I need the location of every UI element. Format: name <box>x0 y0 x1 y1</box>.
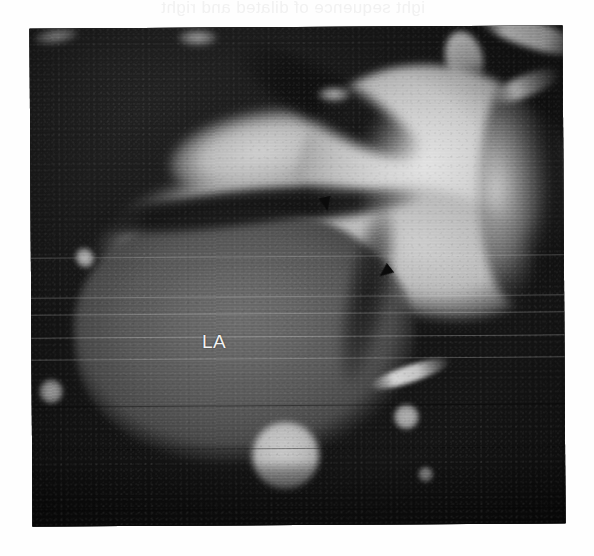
bleed-through-text: ight sequence of dilated and right <box>95 0 425 20</box>
arrowhead-icon-superior <box>319 196 334 212</box>
image-vignette <box>29 25 565 526</box>
label-left-atrium: LA <box>202 331 226 353</box>
medical-image-plate <box>29 25 565 526</box>
scanned-page: ight sequence of dilated and right <box>0 0 594 556</box>
